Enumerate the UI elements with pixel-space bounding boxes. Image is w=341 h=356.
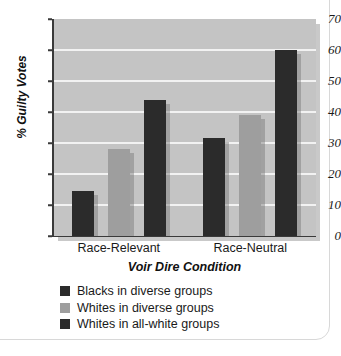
y-axis-title: % Guilty Votes xyxy=(15,37,29,157)
x-axis-title: Voir Dire Condition xyxy=(53,260,316,274)
legend-label: Whites in all-white groups xyxy=(77,317,219,331)
bar xyxy=(275,50,297,236)
legend-label: Whites in diverse groups xyxy=(77,301,214,315)
y-tick-mark xyxy=(48,80,52,82)
chart-legend: Blacks in diverse groupsWhites in divers… xyxy=(60,283,310,333)
y-tick-mark xyxy=(48,111,52,113)
legend-swatch-icon xyxy=(60,286,70,296)
x-category-label: Race-Neutral xyxy=(190,241,310,255)
y-tick-mark xyxy=(48,142,52,144)
legend-label: Blacks in diverse groups xyxy=(77,284,212,298)
legend-item: Whites in all-white groups xyxy=(60,316,310,333)
bar xyxy=(72,191,94,236)
y-axis-line xyxy=(52,19,54,237)
y-tick-label: 40 xyxy=(295,104,341,120)
legend-swatch-icon xyxy=(60,303,70,313)
grouped-bar-chart: 010203040506070 % Guilty Votes Race-Rele… xyxy=(0,0,341,356)
bar xyxy=(108,149,130,236)
y-tick-label: 20 xyxy=(295,166,341,182)
y-tick-mark xyxy=(48,49,52,51)
y-tick-label: 60 xyxy=(295,42,341,58)
legend-item: Blacks in diverse groups xyxy=(60,283,310,300)
y-tick-mark xyxy=(48,235,52,237)
y-tick-label: 30 xyxy=(295,135,341,151)
y-tick-label: 70 xyxy=(295,11,341,27)
y-tick-mark xyxy=(48,204,52,206)
legend-swatch-icon xyxy=(60,319,70,329)
bar xyxy=(203,138,225,236)
x-axis-line xyxy=(52,236,316,238)
chart-card: 010203040506070 % Guilty Votes Race-Rele… xyxy=(0,0,341,356)
x-category-label: Race-Relevant xyxy=(59,241,179,255)
bar xyxy=(144,100,166,236)
legend-item: Whites in diverse groups xyxy=(60,300,310,317)
plot-area xyxy=(53,19,316,236)
bar xyxy=(239,115,261,236)
y-tick-mark xyxy=(48,18,52,20)
y-tick-label: 10 xyxy=(295,197,341,213)
y-tick-mark xyxy=(48,173,52,175)
y-tick-label: 50 xyxy=(295,73,341,89)
